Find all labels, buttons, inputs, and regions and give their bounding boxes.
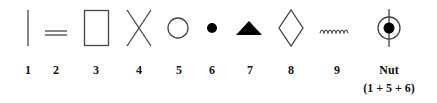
nut-center-dot-icon [384,23,395,34]
open-diamond-icon [279,10,303,46]
rectangle-icon [85,11,109,46]
symbol-label-nut: Nut [379,63,398,78]
symbol-sublabel-nut: (1 + 5 + 6) [363,81,415,96]
symbol-label-1: 1 [25,63,31,78]
wavy-line-icon [320,30,348,33]
symbol-label-7: 7 [247,63,253,78]
cross-x-icon [127,10,151,46]
filled-triangle-icon [236,21,262,35]
symbol-label-6: 6 [209,63,215,78]
open-circle-icon [168,18,188,38]
double-line-icon [45,31,67,35]
symbol-label-4: 4 [136,63,142,78]
filled-dot-icon [207,23,217,33]
symbol-label-3: 3 [93,63,99,78]
symbol-label-9: 9 [334,63,340,78]
symbol-label-5: 5 [176,63,182,78]
symbol-label-8: 8 [288,63,294,78]
symbol-label-2: 2 [53,63,59,78]
